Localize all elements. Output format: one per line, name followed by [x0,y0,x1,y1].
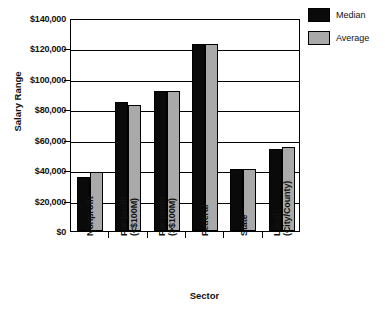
x-axis-tick-labels: NonprofitFor-profit (<$100M)For-profit (… [0,0,385,310]
x-axis-tick-mark [108,232,109,238]
average-swatch-icon [308,31,330,45]
x-axis-tick-label: State [239,160,249,236]
x-axis-tick-label: For-profit (<$100M) [119,160,139,236]
x-axis-tick-mark [223,232,224,238]
x-axis-title: Sector [0,290,385,301]
x-axis-tick-mark [185,232,186,238]
legend-label: Median [336,10,366,20]
x-axis-tick-mark [147,232,148,238]
x-axis-tick-mark [262,232,263,238]
x-axis-tick-label: Federal [200,160,210,236]
legend: MedianAverage [308,8,369,45]
x-axis-tick-label: Local (City/County) [272,160,292,236]
bar-chart: $0$20,000$40,000$60,000$80,000$100,000$1… [0,0,385,310]
legend-label: Average [336,33,369,43]
legend-item[interactable]: Average [308,31,369,45]
x-axis-tick-label: Nonprofit [85,160,95,236]
x-axis-tick-label: For-profit (>$100M) [157,160,177,236]
legend-item[interactable]: Median [308,8,369,22]
median-swatch-icon [308,8,330,22]
